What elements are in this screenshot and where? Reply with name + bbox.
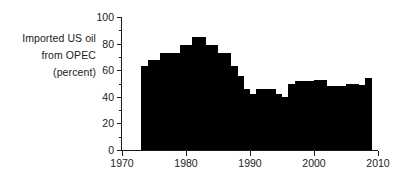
chart-figure: Imported US oil from OPEC (percent) 0204… (0, 0, 412, 182)
y-axis-tick-label: 80 (90, 39, 114, 50)
x-axis-tick-label: 1980 (166, 158, 206, 169)
y-axis-tick-label: 40 (90, 92, 114, 103)
y-axis-tick-label: 100 (90, 12, 114, 23)
x-axis-tick-label: 1970 (102, 158, 142, 169)
x-axis-ticks: 19701980199020002010 (122, 151, 378, 177)
bar (365, 78, 372, 150)
x-axis-tick (122, 151, 123, 156)
x-axis-tick (250, 151, 251, 156)
y-axis-tick-label: 0 (90, 145, 114, 156)
y-axis-labels: 020406080100 (0, 0, 122, 182)
x-axis-tick (314, 151, 315, 156)
x-axis-tick-label: 2000 (294, 158, 334, 169)
y-axis-tick-label: 20 (90, 118, 114, 129)
x-axis-tick (378, 151, 379, 156)
x-axis-tick-label: 1990 (230, 158, 270, 169)
plot-area (122, 17, 378, 150)
x-axis-tick (186, 151, 187, 156)
x-axis-tick-label: 2010 (358, 158, 398, 169)
y-axis-tick-label: 60 (90, 65, 114, 76)
